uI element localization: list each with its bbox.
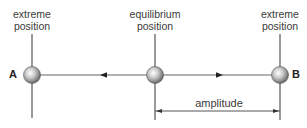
right-extreme-label-line2: position <box>256 20 304 32</box>
left-extreme-label-line1: extreme <box>8 8 56 20</box>
oscillation-diagram: extreme position equilibrium position ex… <box>0 0 307 128</box>
left-extreme-label: extreme position <box>8 8 56 32</box>
ball-equilibrium-icon <box>147 67 164 84</box>
amplitude-label: amplitude <box>190 97 248 109</box>
right-extreme-label: extreme position <box>256 8 304 32</box>
ball-b-icon <box>272 67 289 84</box>
point-a-label: A <box>9 68 17 80</box>
equilibrium-label-line1: equilibrium <box>124 8 186 20</box>
equilibrium-label: equilibrium position <box>124 8 186 32</box>
amplitude-arrow-right-icon <box>273 109 279 113</box>
ball-a-icon <box>24 67 41 84</box>
left-extreme-label-line2: position <box>8 20 56 32</box>
point-b-label: B <box>292 68 300 80</box>
amplitude-arrow-left-icon <box>156 109 162 113</box>
arrow-left-icon <box>100 72 107 78</box>
arrow-right-icon <box>216 72 223 78</box>
equilibrium-label-line2: position <box>124 20 186 32</box>
right-extreme-label-line1: extreme <box>256 8 304 20</box>
